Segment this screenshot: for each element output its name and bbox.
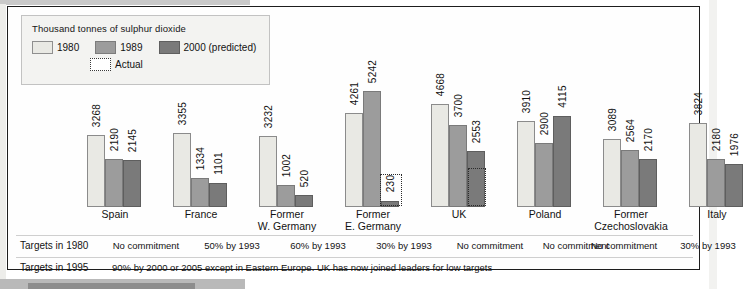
targets-1980-row: Targets in 1980 No commitment 50% by 199…: [16, 236, 693, 258]
scan-artifact-bottom-dark: [28, 283, 195, 289]
bar-value-poland-1980: 3910: [521, 90, 532, 113]
bar-czechoslovakia-1980: 3089: [603, 139, 621, 207]
bar-group-uk: 4668 3700 2553: [431, 91, 505, 207]
category-label-czechoslovakia: Former Czechoslovakia: [583, 209, 679, 232]
targets-1980-cell-czechoslovakia: No commitment: [576, 240, 672, 251]
targets-1995-label: Targets in 1995: [20, 262, 88, 273]
bar-value-france-1980: 3355: [177, 102, 188, 125]
category-label-east-germany: Former E. Germany: [325, 209, 421, 232]
category-label-east-germany-line2: E. Germany: [325, 221, 421, 233]
legend-title: Thousand tonnes of sulphur dioxide: [32, 23, 261, 34]
chart-frame: Thousand tonnes of sulphur dioxide 1980 …: [7, 6, 700, 270]
category-label-poland-line1: Poland: [497, 209, 593, 221]
bar-group-poland: 3910 2900 4115: [517, 91, 591, 207]
category-label-spain: Spain: [67, 209, 163, 221]
bar-value-italy-1980: 3824: [693, 92, 704, 115]
bar-value-italy-1989: 2180: [711, 128, 722, 151]
bar-value-east-germany-1989: 5242: [367, 60, 378, 83]
bar-value-italy-2000: 1976: [729, 133, 740, 156]
category-label-france: France: [153, 209, 249, 221]
bar-value-spain-1980: 3268: [91, 104, 102, 127]
bar-czechoslovakia-1989: 2564: [621, 150, 639, 207]
bar-west-germany-1980: 3232: [259, 136, 277, 207]
scan-artifact-left: [0, 4, 6, 279]
bar-group-east-germany: 4261 5242 230: [345, 91, 419, 207]
legend-swatch-2000-icon: [159, 41, 180, 54]
targets-1980-cell-france: 50% by 1993: [184, 240, 280, 251]
bar-poland-2000: 4115: [553, 116, 571, 207]
category-label-italy: Italy: [669, 209, 747, 221]
bar-italy-1989: 2180: [707, 159, 725, 207]
bar-value-poland-2000: 4115: [557, 85, 568, 108]
bar-value-uk-1980: 4668: [435, 73, 446, 96]
bar-value-poland-1989: 2900: [539, 112, 550, 135]
bar-poland-1989: 2900: [535, 143, 553, 207]
targets-1980-cell-italy: 30% by 1993: [660, 240, 747, 251]
category-label-france-line1: France: [153, 209, 249, 221]
bar-value-uk-2000: 2553: [471, 120, 482, 143]
targets-1995-text: 90% by 2000 or 2005 except in Eastern Eu…: [112, 262, 672, 273]
bar-france-1980: 3355: [173, 133, 191, 207]
bar-france-2000: 1101: [209, 183, 227, 207]
legend-label-1980: 1980: [57, 42, 79, 53]
targets-1980-cell-uk: No commitment: [442, 240, 538, 251]
plot-area: 3268 2190 2145 3355 1334 1101: [21, 91, 687, 207]
bar-group-france: 3355 1334 1101: [173, 91, 247, 207]
category-label-uk: UK: [411, 209, 507, 221]
bar-east-germany-2000: 230: [381, 201, 399, 207]
legend-label-2000: 2000 (predicted): [184, 42, 257, 53]
bar-value-czechoslovakia-2000: 2170: [643, 128, 654, 151]
bar-value-czechoslovakia-1980: 3089: [607, 108, 618, 131]
bar-east-germany-1989: 5242: [363, 91, 381, 207]
legend-row-actual: Actual: [90, 58, 261, 71]
bar-value-czechoslovakia-1989: 2564: [625, 119, 636, 142]
category-label-italy-line1: Italy: [669, 209, 747, 221]
bar-italy-2000: 1976: [725, 164, 743, 207]
bar-value-france-2000: 1101: [213, 152, 224, 175]
legend-label-1989: 1989: [120, 42, 142, 53]
legend-label-actual: Actual: [115, 59, 143, 70]
legend-swatch-actual-icon: [90, 58, 111, 71]
bar-value-france-1989: 1334: [195, 147, 206, 170]
bar-value-east-germany-1980: 4261: [349, 82, 360, 105]
scan-artifact-top: [0, 0, 250, 5]
bar-spain-1989: 2190: [105, 159, 123, 207]
category-label-spain-line1: Spain: [67, 209, 163, 221]
category-label-west-germany-line2: W. Germany: [239, 221, 335, 233]
bar-group-spain: 3268 2190 2145: [87, 91, 161, 207]
actual-marker-uk: [468, 168, 486, 206]
legend-swatch-1980-icon: [32, 41, 53, 54]
targets-1980-label: Targets in 1980: [20, 240, 88, 251]
targets-1980-cell-spain: No commitment: [98, 240, 194, 251]
bar-value-west-germany-1989: 1002: [281, 154, 292, 177]
targets-1980-cell-east-germany: 30% by 1993: [356, 240, 452, 251]
bar-group-west-germany: 3232 1002 520: [259, 91, 333, 207]
targets-1995-row: Targets in 1995 90% by 2000 or 2005 exce…: [16, 258, 693, 280]
bar-value-spain-1989: 2190: [109, 128, 120, 151]
bar-france-1989: 1334: [191, 178, 209, 207]
category-label-east-germany-line1: Former: [325, 209, 421, 221]
bar-group-italy: 3824 2180 1976: [689, 91, 747, 207]
bar-value-west-germany-2000: 520: [299, 170, 310, 188]
category-label-west-germany-line1: Former: [239, 209, 335, 221]
bar-east-germany-1980: 4261: [345, 113, 363, 207]
bar-spain-2000: 2145: [123, 160, 141, 207]
legend-swatch-1989-icon: [95, 41, 116, 54]
bar-italy-1980: 3824: [689, 123, 707, 207]
bar-value-spain-2000: 2145: [127, 129, 138, 152]
bar-uk-2000: 2553: [467, 151, 485, 207]
bar-west-germany-1989: 1002: [277, 185, 295, 207]
category-label-czechoslovakia-line2: Czechoslovakia: [583, 221, 679, 233]
bar-west-germany-2000: 520: [295, 195, 313, 207]
bar-uk-1989: 3700: [449, 125, 467, 207]
bar-poland-1980: 3910: [517, 121, 535, 207]
bar-value-uk-1989: 3700: [453, 94, 464, 117]
actual-marker-east-germany: [380, 174, 402, 206]
bar-group-czechoslovakia: 3089 2564 2170: [603, 91, 677, 207]
legend-row-primary: 1980 1989 2000 (predicted): [32, 41, 261, 54]
bar-value-west-germany-1980: 3232: [263, 105, 274, 128]
category-label-west-germany: Former W. Germany: [239, 209, 335, 232]
targets-1980-cell-west-germany: 60% by 1993: [270, 240, 366, 251]
bar-uk-1980: 4668: [431, 104, 449, 207]
category-label-uk-line1: UK: [411, 209, 507, 221]
